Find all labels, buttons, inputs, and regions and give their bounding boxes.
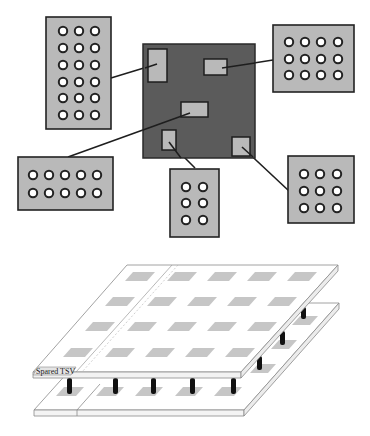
- tsv-region-left: [18, 157, 113, 210]
- tsv-region-top-left: [46, 17, 111, 129]
- tsv-diagram: Spared TSV: [0, 0, 370, 436]
- die-region-4: [162, 130, 176, 150]
- spared-tsv-text: Spared TSV: [36, 367, 75, 376]
- stacked-layers: Spared TSV: [33, 265, 339, 416]
- spared-tsv-pillar: [67, 378, 72, 394]
- spared-tsv-label: Spared TSV: [33, 367, 76, 376]
- tsv-region-top-right: [273, 25, 354, 92]
- tsv-region-right: [288, 156, 354, 223]
- die-region-5: [232, 137, 250, 156]
- tsv-region-bottom-center: [170, 169, 219, 237]
- chip-die: [143, 44, 255, 158]
